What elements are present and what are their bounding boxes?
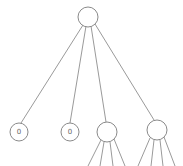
tree-diagram: 0 0 (0, 0, 183, 166)
edge-node-4-child-1 (138, 138, 150, 166)
node-4-child-edges (138, 137, 175, 166)
root-edges (21, 24, 154, 123)
edge-node-4-child-3 (160, 140, 163, 166)
leaf-node-1: 0 (10, 123, 28, 141)
internal-node-3-circle (97, 122, 117, 142)
internal-node-3 (97, 122, 117, 142)
leaf-node-1-label: 0 (17, 128, 21, 136)
node-3-child-edges (88, 139, 125, 166)
root-node (78, 7, 98, 27)
edge-node-4-child-2 (151, 140, 154, 166)
edge-node-3-child-2 (100, 142, 104, 166)
edge-root-leaf-1 (21, 25, 83, 123)
root-node-circle (78, 7, 98, 27)
internal-node-4 (147, 120, 167, 140)
internal-node-4-circle (147, 120, 167, 140)
edge-root-leaf-2 (70, 26, 86, 123)
edge-root-node-3 (91, 26, 106, 122)
edge-node-3-child-3 (110, 142, 113, 166)
edge-node-4-child-4 (164, 137, 175, 166)
edge-node-3-child-1 (88, 140, 101, 166)
leaf-node-2: 0 (61, 123, 79, 141)
leaf-node-2-label: 0 (68, 128, 72, 136)
edge-node-3-child-4 (114, 139, 125, 166)
